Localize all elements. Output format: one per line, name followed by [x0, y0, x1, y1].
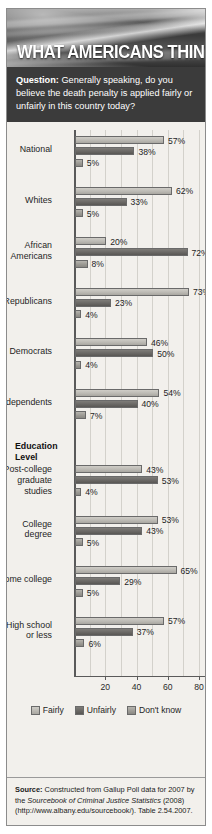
section-header-education-level: EducationLevel: [15, 441, 107, 462]
source-note: Source: Constructed from Gallup Poll dat…: [7, 777, 205, 825]
bar-unfairly: [75, 349, 153, 357]
bar-fairly: [75, 338, 147, 346]
bar-fairly: [75, 187, 172, 195]
bar-dont-know: [75, 589, 83, 597]
row-label: Republicans: [6, 296, 52, 307]
row-label-line: degree: [6, 529, 52, 540]
banner: WHAT AMERICANS THINK: [7, 9, 205, 67]
legend-label: Don't know: [139, 705, 181, 715]
row-label-line: African: [6, 240, 52, 251]
bar-value-label: 57%: [168, 137, 185, 145]
bar-value-label: 54%: [163, 389, 180, 397]
legend-item: Don't know: [127, 705, 181, 715]
row-label-line: Post-college: [6, 464, 52, 475]
gridline: [168, 130, 169, 677]
bar-value-label: 38%: [138, 148, 155, 156]
row-label: Democrats: [6, 346, 52, 357]
bar-dont-know: [75, 209, 83, 217]
bar-value-label: 4%: [85, 361, 97, 369]
row-label-line: Independents: [6, 397, 52, 408]
chart-area: 57%38%5%62%33%5%20%72%8%73%23%4%46%50%4%…: [7, 122, 205, 723]
bar-value-label: 40%: [142, 400, 159, 408]
row-label-line: Americans: [6, 251, 52, 262]
bar-unfairly: [75, 400, 138, 408]
row-label: Independents: [6, 397, 52, 408]
bar-unfairly: [75, 198, 127, 206]
bar-value-label: 20%: [110, 238, 127, 246]
legend-label: Fairly: [43, 705, 64, 715]
bar-value-label: 43%: [146, 527, 163, 535]
bar-value-label: 73%: [193, 288, 206, 296]
bar-value-label: 65%: [181, 567, 198, 575]
row-label-line: graduate: [6, 475, 52, 486]
bar-unfairly: [75, 248, 188, 256]
x-tick-label: 60: [163, 682, 173, 692]
bar-unfairly: [75, 299, 111, 307]
row-label-line: Some college: [6, 574, 52, 585]
row-label-line: High school: [6, 620, 52, 631]
bar-value-label: 5%: [87, 539, 99, 547]
source-italic-title: Sourcebook of Criminal Justice Statistic…: [27, 796, 161, 805]
bar-dont-know: [75, 310, 81, 318]
bar-value-label: 43%: [146, 466, 163, 474]
row-label-line: National: [6, 144, 52, 155]
bar-fairly: [75, 516, 158, 524]
bar-unfairly: [75, 476, 158, 484]
bar-fairly: [75, 566, 177, 574]
x-tick-mark: [105, 677, 106, 680]
bar-unfairly: [75, 577, 120, 585]
bar-value-label: 6%: [88, 640, 100, 648]
question-label: Question:: [16, 75, 59, 85]
bar-value-label: 5%: [87, 210, 99, 218]
infographic-card: WHAT AMERICANS THINK Question: Generally…: [6, 8, 206, 826]
bar-value-label: 57%: [168, 617, 185, 625]
bar-dont-know: [75, 159, 83, 167]
row-label: Whites: [6, 195, 52, 206]
bar-value-label: 23%: [115, 299, 132, 307]
bar-fairly: [75, 136, 164, 144]
legend-item: Fairly: [31, 705, 64, 715]
x-tick-label: 20: [100, 682, 110, 692]
row-label-line: College: [6, 519, 52, 530]
bar-fairly: [75, 288, 189, 296]
bar-value-label: 33%: [131, 198, 148, 206]
bar-value-label: 4%: [85, 488, 97, 496]
bar-unfairly: [75, 628, 133, 636]
bar-dont-know: [75, 488, 81, 496]
gridline: [199, 130, 200, 677]
row-label: AfricanAmericans: [6, 240, 52, 261]
bar-value-label: 53%: [162, 477, 179, 485]
bar-value-label: 46%: [151, 339, 168, 347]
bar-dont-know: [75, 260, 88, 268]
bar-value-label: 8%: [92, 260, 104, 268]
bar-unfairly: [75, 527, 142, 535]
row-label: Some college: [6, 574, 52, 585]
row-label-line: Democrats: [6, 346, 52, 357]
x-tick-mark: [137, 677, 138, 680]
section-header-line: Education: [15, 441, 107, 452]
bar-value-label: 5%: [87, 159, 99, 167]
bar-dont-know: [75, 361, 81, 369]
x-tick-mark: [168, 677, 169, 680]
x-axis: [74, 676, 205, 678]
bar-value-label: 4%: [85, 311, 97, 319]
bar-dont-know: [75, 639, 84, 647]
row-label: High schoolor less: [6, 620, 52, 641]
bar-unfairly: [75, 147, 134, 155]
bar-value-label: 50%: [157, 350, 174, 358]
bar-value-label: 53%: [162, 516, 179, 524]
row-label-line: or less: [6, 630, 52, 641]
gridline-minor: [183, 130, 184, 677]
section-header-line: Level: [15, 452, 107, 463]
plot-region: 57%38%5%62%33%5%20%72%8%73%23%4%46%50%4%…: [74, 130, 199, 677]
bar-value-label: 72%: [192, 249, 207, 257]
bar-value-label: 37%: [137, 628, 154, 636]
bar-dont-know: [75, 411, 86, 419]
legend-swatch-icon: [75, 706, 84, 715]
legend-label: Unfairly: [87, 705, 116, 715]
page-title: WHAT AMERICANS THINK: [17, 44, 188, 62]
legend-item: Unfairly: [75, 705, 116, 715]
x-tick-label: 40: [132, 682, 142, 692]
bar-value-label: 62%: [176, 187, 193, 195]
bar-fairly: [75, 389, 159, 397]
